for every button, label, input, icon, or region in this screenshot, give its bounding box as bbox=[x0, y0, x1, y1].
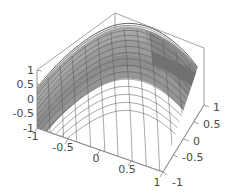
z-tick-label-1: 1 bbox=[27, 64, 34, 77]
x-tick-label-neg1: -1 bbox=[28, 130, 39, 143]
z-tick-label-0p5: 0.5 bbox=[17, 78, 35, 91]
y-tick-label-neg1: -1 bbox=[172, 176, 183, 189]
x-tick-label-neg0p5: -0.5 bbox=[52, 141, 73, 154]
z-tick-label-0: 0 bbox=[27, 93, 34, 106]
x-tick-label-1: 1 bbox=[154, 176, 161, 189]
y-tick-label-0p5: 0.5 bbox=[203, 118, 221, 131]
z-axis-tick-labels: 1 0.5 0 -0.5 -1 bbox=[13, 64, 34, 135]
y-tick-label-1: 1 bbox=[213, 101, 220, 114]
x-tick-label-0: 0 bbox=[93, 152, 100, 165]
x-axis-tick-labels: -1 -0.5 0 0.5 1 bbox=[28, 130, 161, 189]
surface-plot-figure: 1 0.5 0 -0.5 -1 -1 -0.5 0 0.5 1 bbox=[0, 0, 242, 194]
y-tick-label-neg0p5: -0.5 bbox=[182, 151, 203, 164]
plot-canvas: 1 0.5 0 -0.5 -1 -1 -0.5 0 0.5 1 bbox=[0, 0, 242, 194]
x-tick-label-0p5: 0.5 bbox=[118, 163, 136, 176]
y-tick-label-0: 0 bbox=[193, 135, 200, 148]
z-tick-label-neg0p5: -0.5 bbox=[13, 107, 34, 120]
